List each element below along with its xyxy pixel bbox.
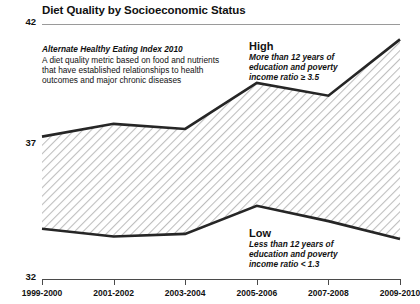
- series-label-high-name: High: [249, 40, 359, 52]
- x-axis-tick-2009-2010: [400, 279, 401, 285]
- x-axis-label-2003-2004: 2003-2004: [165, 288, 206, 298]
- definition-body: A diet quality metric based on food and …: [42, 55, 232, 86]
- series-label-high: High More than 12 years of education and…: [249, 40, 359, 82]
- definition-heading: Alternate Healthy Eating Index 2010: [42, 44, 232, 54]
- series-label-low-desc: Less than 12 years of education and pove…: [249, 240, 359, 269]
- x-axis-tick-2001-2002: [114, 279, 115, 285]
- x-axis-tick-2005-2006: [257, 279, 258, 285]
- x-axis-tick-2007-2008: [328, 279, 329, 285]
- series-label-low: Low Less than 12 years of education and …: [249, 227, 359, 269]
- series-label-high-desc: More than 12 years of education and pove…: [249, 53, 359, 82]
- x-axis-label-2009-2010: 2009-2010: [380, 288, 420, 298]
- series-label-low-name: Low: [249, 227, 359, 239]
- x-axis-tick-2003-2004: [185, 279, 186, 285]
- x-axis-label-2007-2008: 2007-2008: [308, 288, 349, 298]
- x-axis-label-2005-2006: 2005-2006: [236, 288, 277, 298]
- x-axis-line: [42, 279, 400, 280]
- x-axis-label-2001-2002: 2001-2002: [93, 288, 134, 298]
- definition-annotation: Alternate Healthy Eating Index 2010 A di…: [42, 44, 232, 86]
- x-axis-label-1999-2000: 1999-2000: [22, 288, 63, 298]
- x-axis-tick-1999-2000: [42, 279, 43, 285]
